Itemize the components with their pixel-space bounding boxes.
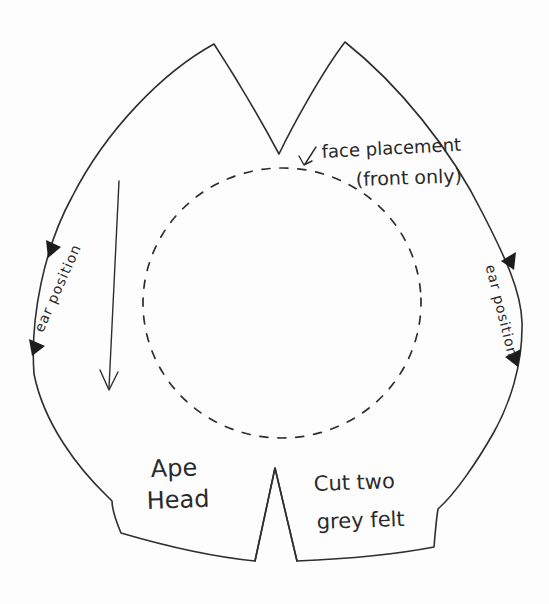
pattern-sheet: face placement (front only) ear position… xyxy=(0,0,549,604)
face-placement-pointer-arrow xyxy=(299,147,316,165)
ear-position-label-right: ear position xyxy=(483,263,521,359)
face-placement-label-line2: (front only) xyxy=(355,164,462,190)
ape-head-pattern-drawing: face placement (front only) ear position… xyxy=(0,0,549,604)
face-placement-label-line1: face placement xyxy=(321,134,461,162)
pattern-outline xyxy=(33,42,522,561)
piece-name-line1: Ape xyxy=(150,453,197,483)
cutting-instruction-line2: grey felt xyxy=(316,507,405,534)
face-placement-circle xyxy=(138,163,425,443)
ear-notch-left-bottom xyxy=(29,339,45,356)
piece-name-line2: Head xyxy=(146,485,210,515)
grain-line-arrow xyxy=(100,181,119,390)
ear-position-label-left: ear position xyxy=(31,241,84,334)
ear-notch-left-top xyxy=(46,240,61,258)
cutting-instruction-line1: Cut two xyxy=(313,469,395,496)
bottom-dart xyxy=(255,468,297,561)
